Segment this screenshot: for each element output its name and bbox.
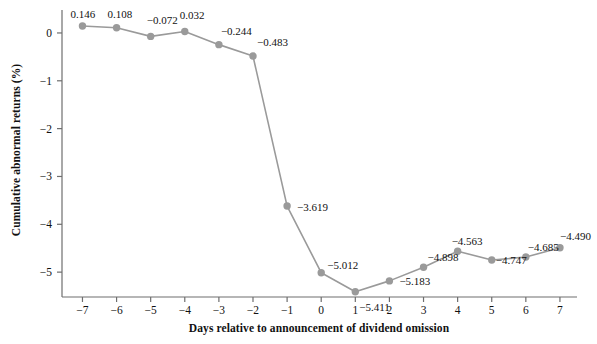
x-axis-tick-label: 4: [455, 304, 461, 316]
y-axis-ticks: [57, 33, 62, 272]
x-axis-tick-label: −7: [76, 304, 88, 316]
data-point-marker[interactable]: [113, 24, 120, 31]
data-point-label: −4.685: [528, 241, 559, 253]
x-axis-tick-label: −5: [145, 304, 157, 316]
series-markers-car: [79, 22, 564, 295]
data-point-label: −4.490: [560, 230, 591, 242]
data-point-label: −3.619: [297, 201, 328, 213]
x-axis-tick-label: −4: [179, 304, 191, 316]
data-point-label: −5.012: [327, 259, 358, 271]
data-point-marker[interactable]: [283, 202, 290, 209]
data-point-marker[interactable]: [488, 256, 495, 263]
x-axis-tick-label: 5: [489, 304, 495, 316]
x-axis-tick-label: 0: [318, 304, 324, 316]
y-axis-tick-label: −2: [40, 123, 52, 135]
data-point-marker[interactable]: [215, 41, 222, 48]
data-point-label: 0.146: [70, 8, 95, 20]
data-point-marker[interactable]: [147, 33, 154, 40]
x-axis-tick-label: −2: [247, 304, 259, 316]
series-line-car: [82, 26, 559, 292]
x-axis-tick-label: 6: [523, 304, 529, 316]
data-point-label: −5.411: [359, 301, 390, 313]
y-axis-tick-label: −1: [40, 75, 52, 87]
x-axis-tick-label: −1: [281, 304, 293, 316]
y-axis-tick-label: −4: [40, 218, 52, 230]
x-axis-tick-label: 7: [557, 304, 563, 316]
x-axis-tick-label: 1: [352, 304, 358, 316]
data-point-label: 0.108: [108, 8, 133, 20]
x-axis-title: Days relative to announcement of dividen…: [62, 322, 576, 334]
x-axis-tick-label: −3: [213, 304, 225, 316]
data-point-marker[interactable]: [249, 52, 256, 59]
data-point-label: −0.244: [221, 25, 252, 37]
data-point-label: −0.072: [147, 14, 178, 26]
x-axis-tick-label: 3: [421, 304, 427, 316]
x-axis-ticks: [82, 297, 559, 302]
y-axis-tick-label: 0: [46, 27, 52, 39]
data-point-label: −0.483: [257, 36, 288, 48]
y-axis-tick-label: −5: [40, 266, 52, 278]
data-point-marker[interactable]: [420, 264, 427, 271]
x-axis-title-text: Days relative to announcement of dividen…: [189, 322, 449, 334]
data-point-label: 0.032: [180, 9, 205, 21]
data-point-label: −4.563: [452, 235, 483, 247]
data-point-marker[interactable]: [318, 269, 325, 276]
data-point-marker[interactable]: [352, 288, 359, 295]
chart-plot-area: [0, 0, 597, 344]
y-axis-tick-label: −3: [40, 170, 52, 182]
data-point-marker[interactable]: [386, 277, 393, 284]
x-axis-tick-label: −6: [110, 304, 122, 316]
data-point-label: −4.898: [428, 251, 459, 263]
data-point-label: −4.747: [496, 254, 527, 266]
data-point-label: −5.183: [399, 275, 430, 287]
data-point-marker[interactable]: [181, 28, 188, 35]
data-point-marker[interactable]: [79, 22, 86, 29]
chart-figure: Cumulative abnormal returns (%) 0−1−2−3−…: [0, 0, 597, 344]
